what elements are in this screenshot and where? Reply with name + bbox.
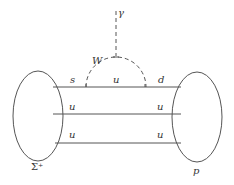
label-u-internal-quark: u (113, 74, 119, 85)
proton-hadron-blob (172, 72, 222, 162)
label-u-right-middle: u (157, 101, 163, 112)
label-u-left-bottom: u (69, 129, 75, 140)
feynman-diagram: γ W s u d u u u u Σ⁺ p (0, 0, 234, 185)
label-gamma: γ (118, 7, 124, 18)
label-proton: p (193, 165, 200, 176)
label-s-quark: s (70, 74, 75, 85)
label-w-boson: W (92, 55, 103, 66)
sigma-plus-hadron-blob (13, 71, 63, 161)
label-u-left-middle: u (69, 101, 75, 112)
label-sigma-plus: Σ⁺ (31, 161, 43, 172)
label-u-right-bottom: u (157, 129, 163, 140)
label-d-quark: d (158, 74, 164, 85)
